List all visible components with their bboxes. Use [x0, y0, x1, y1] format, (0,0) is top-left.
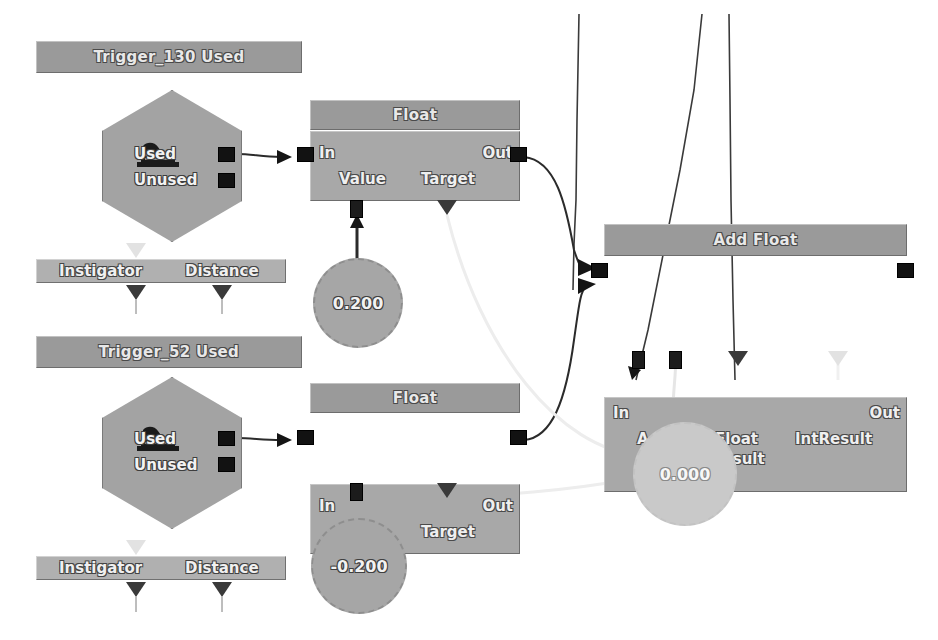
instigator-link-top[interactable]: [126, 285, 146, 300]
trigger-130-title[interactable]: Trigger_130 Used: [36, 41, 302, 73]
trigger-52-output-unused[interactable]: Unused: [134, 456, 197, 474]
float-top-value-label: Value: [339, 170, 386, 188]
add-float-b-link[interactable]: [669, 351, 682, 369]
trigger-130-output-unused[interactable]: Unused: [134, 171, 197, 189]
float-bottom-out-label: Out: [482, 497, 513, 515]
float-top-target-link[interactable]: [437, 200, 457, 215]
float-top-target-label: Target: [421, 170, 475, 188]
float-top-out-connector[interactable]: [510, 147, 527, 162]
float-top-in-connector[interactable]: [297, 147, 314, 162]
float-top-title[interactable]: Float: [310, 100, 520, 130]
distance-label-top: Distance: [185, 262, 259, 280]
wire-float-top-out-to-add: [524, 157, 586, 270]
trigger-52-event-node[interactable]: [102, 377, 242, 529]
background-line-2: [636, 14, 702, 380]
add-float-title[interactable]: Add Float: [604, 224, 907, 256]
float-top-value-link[interactable]: [350, 200, 363, 218]
trigger-52-unused-connector[interactable]: [218, 457, 235, 472]
add-float-intresult-label: IntResult: [795, 430, 872, 448]
float-bottom-value-link[interactable]: [350, 483, 363, 501]
trigger-52-title[interactable]: Trigger_52 Used: [36, 336, 302, 368]
background-line-3: [729, 14, 735, 380]
float-top-in-label: In: [319, 144, 335, 162]
float-bottom-out-connector[interactable]: [510, 430, 527, 445]
add-float-in-label: In: [613, 404, 629, 422]
distance-link-top[interactable]: [212, 285, 232, 300]
add-float-out-connector[interactable]: [897, 263, 914, 278]
background-line-1: [573, 14, 579, 290]
trigger-130-unused-connector[interactable]: [218, 173, 235, 188]
wire-trigger130-to-float-top: [237, 154, 281, 157]
float-bottom-in-connector[interactable]: [297, 430, 314, 445]
instigator-incoming-link-top: [126, 243, 146, 258]
float-top-out-label: Out: [482, 144, 513, 162]
instigator-label-bottom: Instigator: [59, 559, 142, 577]
variable-node-value-top[interactable]: 0.200: [313, 258, 403, 348]
instigator-label-top: Instigator: [59, 262, 142, 280]
trigger-52-used-connector[interactable]: [218, 431, 235, 446]
add-float-a-link[interactable]: [632, 351, 645, 369]
trigger-130-used-connector[interactable]: [218, 147, 235, 162]
float-top-body[interactable]: In Out Value Target: [310, 131, 520, 201]
float-bottom-title[interactable]: Float: [310, 383, 520, 413]
node-graph-canvas[interactable]: Trigger_130 Used Used Unused Instigator …: [0, 0, 938, 640]
distance-link-bottom[interactable]: [212, 582, 232, 597]
variable-node-value-bottom[interactable]: -0.200: [311, 518, 407, 614]
wire-trigger52-to-float-bottom: [237, 438, 281, 440]
instigator-bar-bottom[interactable]: Instigator Distance: [36, 556, 286, 580]
add-float-in-connector[interactable]: [591, 263, 608, 278]
instigator-link-bottom[interactable]: [126, 582, 146, 597]
variable-node-target[interactable]: 0.000: [633, 422, 737, 526]
trigger-130-output-used[interactable]: Used: [134, 145, 176, 163]
wire-float-bottom-out-to-add: [524, 286, 586, 440]
trigger-52-output-used[interactable]: Used: [134, 430, 176, 448]
wire-arrow-2: [277, 433, 292, 447]
float-bottom-target-link[interactable]: [437, 483, 457, 498]
float-bottom-in-label: In: [319, 497, 335, 515]
add-float-intresult-link[interactable]: [828, 351, 848, 366]
wire-arrow-1: [277, 150, 292, 164]
add-float-result-link[interactable]: [728, 351, 748, 366]
wire-arrow-4: [578, 278, 596, 294]
add-float-out-label: Out: [869, 404, 900, 422]
distance-label-bottom: Distance: [185, 559, 259, 577]
float-bottom-target-label: Target: [421, 523, 475, 541]
instigator-incoming-link-bottom: [126, 540, 146, 555]
instigator-bar-top[interactable]: Instigator Distance: [36, 259, 286, 283]
